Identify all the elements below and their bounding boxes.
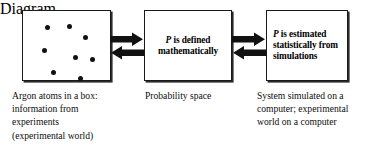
argon-atom-dot (83, 35, 88, 40)
argon-atoms-box (22, 10, 111, 81)
simulation-box-text-rest: is estimated statistically from simulati… (273, 28, 338, 61)
argon-atom-dot (42, 48, 47, 53)
simulation-box-text: P is estimated statistically from simula… (267, 28, 347, 62)
caption-argon-atoms: Argon atoms in a box: information from e… (12, 89, 140, 142)
simulation-box: P is estimated statistically from simula… (266, 10, 348, 81)
probability-box-text: P is defined mathematically (145, 34, 231, 57)
bidirectional-arrow-right-icon (232, 31, 266, 61)
bidirectional-arrow-right (232, 31, 266, 61)
bidirectional-arrow-left (110, 31, 144, 61)
argon-atom-dot (45, 25, 50, 30)
argon-atom-dot (90, 57, 95, 62)
argon-atom-dot (73, 55, 78, 60)
argon-atom-dot (67, 24, 72, 29)
caption-probability-space: Probability space (145, 89, 255, 102)
argon-atom-dot (51, 70, 56, 75)
probability-space-box: P is defined mathematically (144, 10, 232, 81)
caption-simulation: System simulated on a computer; experime… (257, 89, 378, 129)
argon-atom-dot (78, 76, 83, 81)
bidirectional-arrow-left-icon (110, 31, 144, 61)
concept-diagram: P is defined mathematically P is estimat… (0, 0, 378, 152)
